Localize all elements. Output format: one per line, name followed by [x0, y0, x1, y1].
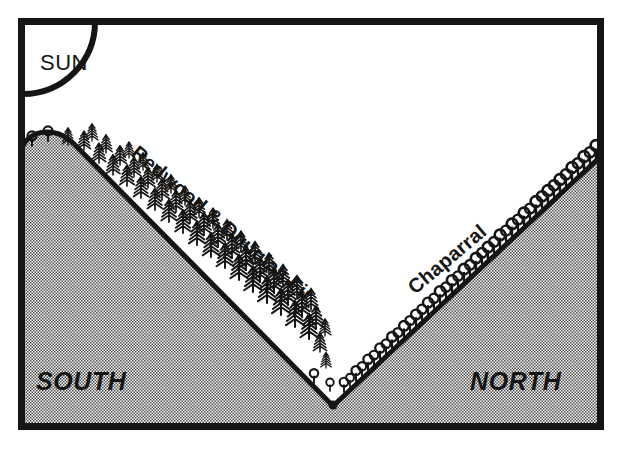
cross-section-illustration: SUN Redwood & Douglas Fir Chaparral SOUT… [0, 0, 623, 450]
conifer-tree [321, 352, 332, 368]
north-label: NORTH [470, 367, 562, 395]
south-label: SOUTH [36, 367, 127, 395]
valley-bottom-marker [329, 401, 338, 410]
sun-symbol: SUN [23, 22, 95, 94]
shrub [326, 379, 334, 391]
conifer-tree [78, 131, 91, 150]
conifer-tree [86, 124, 98, 141]
diagram-canvas: SUN Redwood & Douglas Fir Chaparral SOUT… [0, 0, 623, 450]
conifer-tree [100, 135, 113, 153]
sun-label: SUN [40, 50, 88, 75]
